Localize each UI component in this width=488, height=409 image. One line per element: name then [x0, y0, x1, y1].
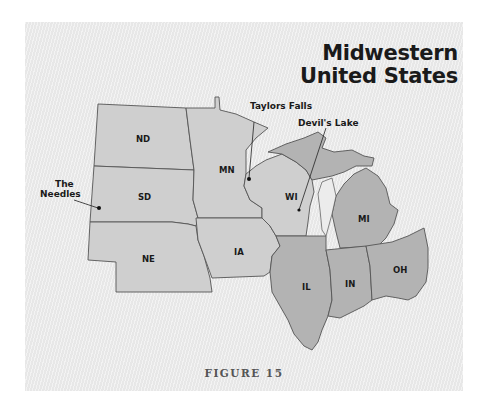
place-label-needles-line1: The	[55, 179, 74, 189]
place-label-devils-lake: Devil's Lake	[298, 118, 359, 128]
map-title-line2: United States	[300, 65, 458, 88]
lake-michigan	[318, 178, 336, 236]
place-label-needles-line2: Needles	[40, 189, 81, 199]
state-il	[270, 236, 332, 350]
map-title: Midwestern United States	[300, 42, 458, 88]
figure-caption: FIGURE 15	[0, 367, 488, 379]
state-label-in: IN	[345, 279, 355, 289]
taylors-falls-marker-icon	[247, 177, 251, 181]
place-label-taylors-falls: Taylors Falls	[250, 101, 312, 111]
state-mi-lower	[332, 168, 398, 248]
state-label-mi: MI	[358, 214, 370, 224]
state-label-oh: OH	[393, 265, 407, 275]
state-label-sd: SD	[138, 192, 151, 202]
state-label-mn: MN	[219, 165, 235, 175]
state-label-wi: WI	[285, 192, 298, 202]
state-label-ne: NE	[142, 254, 155, 264]
devils-lake-marker-icon	[297, 208, 300, 211]
needles-marker-icon	[97, 206, 101, 210]
map-title-line1: Midwestern	[300, 42, 458, 65]
state-label-ia: IA	[234, 247, 244, 257]
state-label-il: IL	[302, 282, 311, 292]
state-label-nd: ND	[136, 134, 150, 144]
